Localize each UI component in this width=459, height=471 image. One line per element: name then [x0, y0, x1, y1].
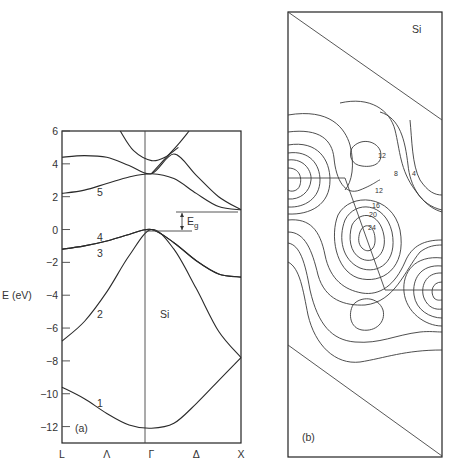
gap-arrow-head-up [180, 213, 184, 217]
y-tick-label: 6 [52, 125, 58, 137]
contour-label: 24 [368, 224, 376, 231]
contour-label: 16 [372, 202, 380, 209]
band-label-4: 4 [97, 231, 103, 243]
contour [350, 141, 380, 166]
y-tick-label: 4 [52, 158, 58, 170]
contour-label: 12 [375, 187, 383, 194]
contour [288, 220, 442, 294]
contours-center-atom [288, 200, 442, 305]
y-tick-label: 2 [52, 191, 58, 203]
band-line-4 [62, 229, 241, 277]
band-line-1 [62, 358, 241, 429]
contour [414, 266, 442, 318]
y-tick-label: 0 [52, 224, 58, 236]
band-line-5 [62, 174, 241, 210]
band-label-5: 5 [97, 186, 103, 198]
band-line-2 [62, 229, 241, 357]
x-tick-label: Δ [193, 448, 200, 460]
material-label-b: Si [412, 23, 421, 35]
band-label-3: 3 [97, 247, 103, 259]
figure: 6420−2−4−6−8−10−12 LΛΓΔX E (eV) Si (a) 1… [0, 0, 459, 471]
contours-right-atom [288, 243, 442, 362]
x-tick-label: Λ [103, 448, 110, 460]
band-label-2: 2 [97, 308, 103, 320]
panel-label-a: (a) [75, 422, 88, 434]
gap-label: Eg [187, 215, 198, 230]
band-label-1: 1 [97, 397, 103, 409]
band-line-3 [62, 229, 241, 277]
x-tick-label: Γ [149, 448, 155, 460]
contour [334, 200, 401, 280]
y-tick-label: −10 [40, 388, 58, 400]
band-line-8 [152, 131, 190, 174]
charge-density-panel: Si (b) [288, 12, 442, 457]
y-tick-label: −8 [46, 355, 58, 367]
contour [288, 131, 380, 191]
contours-left-atom [288, 114, 380, 215]
band-structure-panel: 6420−2−4−6−8−10−12 LΛΓΔX E (eV) Si (a) 1… [2, 125, 245, 460]
contour-label: 8 [394, 170, 398, 177]
band-gap-annotation: Eg [145, 212, 238, 231]
x-tick-label: X [237, 448, 244, 460]
contour [288, 168, 301, 191]
contour [288, 160, 311, 199]
y-tick-label: −12 [40, 421, 58, 433]
contour [288, 262, 442, 362]
contour-label: 12 [378, 152, 386, 159]
contour [410, 120, 442, 195]
gap-arrow-head-down [180, 226, 184, 230]
y-axis-label: E (eV) [2, 289, 32, 301]
contours-upper-island [340, 101, 442, 212]
contour [350, 299, 383, 330]
x-tick-label: L [59, 448, 65, 460]
contour [288, 243, 442, 342]
contour [288, 144, 330, 214]
plot-frame [62, 131, 241, 443]
y-tick-label: −2 [46, 256, 58, 268]
y-tick-label: −6 [46, 322, 58, 334]
panel-label-b: (b) [302, 431, 315, 443]
contour-label: 4 [412, 170, 416, 177]
contour [432, 282, 442, 300]
material-label-a: Si [160, 308, 169, 320]
contour [350, 215, 384, 260]
contour-label: 20 [369, 211, 377, 218]
y-tick-label: −4 [46, 289, 58, 301]
band-line-6 [62, 154, 241, 210]
